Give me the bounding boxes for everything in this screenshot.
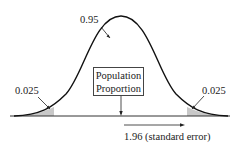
box-line-1: Population bbox=[94, 69, 143, 82]
left-tail-label: 0.025 bbox=[15, 86, 39, 97]
middle-area-arrowhead bbox=[107, 35, 111, 39]
right-tail-label: 0.025 bbox=[202, 86, 226, 97]
distance-label: 1.96 (standard error) bbox=[124, 132, 211, 143]
population-proportion-box: Population Proportion bbox=[93, 67, 144, 96]
middle-area-label: 0.95 bbox=[80, 15, 98, 26]
distance-arrowhead bbox=[180, 123, 185, 126]
box-line-2: Proportion bbox=[94, 82, 143, 95]
center-arrowhead bbox=[119, 111, 122, 116]
